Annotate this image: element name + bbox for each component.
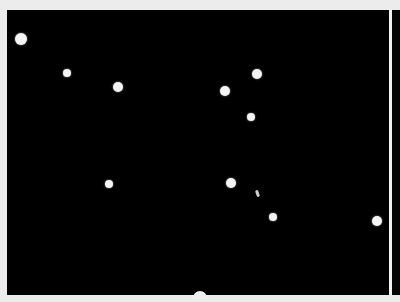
- particle-dot: [252, 69, 262, 79]
- particle-dot: [105, 180, 113, 188]
- particle-dot: [15, 33, 27, 45]
- particle-dot: [372, 216, 382, 226]
- particle-dot: [226, 178, 236, 188]
- bottom-bump: [193, 291, 207, 299]
- black-field: [7, 10, 389, 295]
- particle-dot: [63, 69, 71, 77]
- particle-dot: [269, 213, 277, 221]
- particle-dot: [220, 86, 230, 96]
- right-edge: [392, 10, 400, 295]
- particle-dot: [247, 113, 255, 121]
- particle-dot: [113, 82, 123, 92]
